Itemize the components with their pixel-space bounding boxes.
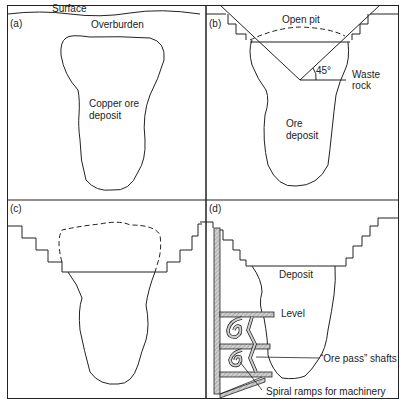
level-3 [220,372,272,377]
panel-a: (a) Surface Overburden Copper ore deposi… [8,3,200,190]
deposit-label-line2: deposit [89,110,121,121]
ore-deposit-outline [250,40,349,186]
surface-line [8,11,200,16]
stepped-pit-outline [219,218,398,266]
spiral-ramp-icon [228,318,242,365]
ore-pass-label: “Ore pass” shafts [320,353,397,364]
original-ore-top-dashed [250,27,345,40]
deposit-label-line1: Copper ore [89,98,139,109]
frame [7,5,399,399]
surface-label: Surface [52,3,87,14]
mining-diagram: (a) Surface Overburden Copper ore deposi… [0,0,404,405]
panel-c: (c) [8,203,202,384]
panel-a-label: (a) [10,18,22,29]
panel-c-label: (c) [10,203,22,214]
panel-b-label: (b) [209,18,221,29]
deposit-label: Deposit [279,269,313,280]
level-2 [220,344,270,349]
panel-d: (d) Deposit Level “Ore pass” shafts [200,203,398,398]
level-1 [220,312,274,317]
open-pit-label: Open pit [282,14,320,25]
bottom-ramp [220,378,265,398]
overburden-label: Overburden [91,19,144,30]
waste-label-line2: rock [352,80,372,91]
angle-label: 45° [316,65,331,76]
waste-label-line1: Waste [352,69,380,80]
ore-label-line2: deposit [286,130,318,141]
ore-deposit-remaining [68,272,155,384]
spiral-ramps-label: Spiral ramps for machinery [266,386,385,397]
level-label: Level [281,308,305,319]
main-shaft [214,228,220,394]
ore-label-line1: Ore [286,118,303,129]
panel-b: 45° Waste rock Open pit (b) Ore deposit [206,5,398,186]
removed-ore-dashed [59,222,161,272]
panel-d-label: (d) [209,203,221,214]
stepped-pit-outline [8,224,202,272]
